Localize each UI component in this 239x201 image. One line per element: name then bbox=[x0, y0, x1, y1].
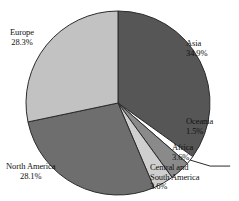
slice-label-asia-value: 34.9% bbox=[186, 49, 207, 59]
slice-label-north-america: North America 28.1% bbox=[6, 162, 55, 181]
slice-label-central-and-south-america: Central and South America 3.6% bbox=[150, 163, 199, 192]
slice-label-europe: Europe 28.3% bbox=[10, 28, 34, 47]
slice-label-asia: Asia 34.9% bbox=[186, 39, 207, 58]
pie-slice-europe bbox=[26, 11, 118, 122]
slice-label-oceania-value: 1.5% bbox=[186, 127, 213, 137]
slice-label-europe-value: 28.3% bbox=[10, 38, 34, 48]
slice-label-africa: Africa 3.6% bbox=[172, 143, 193, 162]
slice-label-oceania: Oceania 1.5% bbox=[186, 117, 213, 136]
pie-chart-figure: Europe 28.3% Asia 34.9% Oceania 1.5% Afr… bbox=[0, 0, 239, 201]
slice-label-africa-value: 3.6% bbox=[172, 153, 193, 163]
slice-label-central-and-south-america-value: 3.6% bbox=[150, 182, 199, 192]
slice-label-north-america-value: 28.1% bbox=[6, 172, 55, 182]
